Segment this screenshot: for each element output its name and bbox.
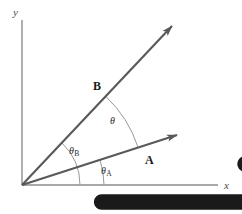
vector-a-label: A <box>145 150 154 166</box>
figure-caption: (a) <box>114 198 126 208</box>
theta-a-label: θA <box>101 166 111 176</box>
vector-a-overarrow-icon <box>145 150 154 155</box>
vector-b-overarrow-icon <box>93 76 101 81</box>
theta-label: θ <box>110 116 115 126</box>
theta-a-subscript: A <box>106 169 111 178</box>
y-axis-label: y <box>13 7 18 18</box>
vector-angle-diagram: y x B A θ θB θA (a) <box>0 0 242 214</box>
theta-b-label: θB <box>69 146 79 156</box>
theta-symbol: θ <box>110 115 115 126</box>
vector-b-label: B <box>93 76 101 92</box>
theta-b-subscript: B <box>74 149 79 158</box>
